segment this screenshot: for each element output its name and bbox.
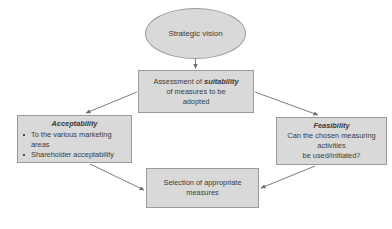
node-selection-line-2: measures [186, 188, 218, 198]
node-strategic-vision-label: Strategic vision [168, 29, 222, 38]
node-assessment-line-2: of measures to be [166, 87, 225, 97]
arrow-feasibility-to-selection [261, 166, 315, 188]
arrow-acceptability-to-selection [90, 164, 144, 190]
list-item: To the various marketing areas [22, 130, 127, 150]
arrow-assessment-to-acceptability [86, 92, 137, 113]
node-assessment-line-1-prefix: Assessment of [153, 77, 204, 86]
node-acceptability-title: Acceptability [22, 119, 127, 129]
node-feasibility-line-3: be used/initiated? [303, 151, 361, 161]
node-acceptability: Acceptability To the various marketing a… [17, 115, 132, 163]
flow-diagram: Strategic vision Assessment of suitabili… [0, 0, 392, 229]
node-strategic-vision: Strategic vision [145, 8, 246, 59]
node-feasibility-title: Feasibility [313, 121, 349, 131]
node-assessment-line-3: adopted [183, 97, 210, 107]
node-selection-line-1: Selection of appropriate [163, 178, 241, 188]
node-feasibility-line-2: activities [317, 141, 345, 151]
node-feasibility: Feasibility Can the chosen measuring act… [276, 117, 387, 165]
node-acceptability-bullet-list: To the various marketing areas Sharehold… [22, 130, 127, 160]
arrow-assessment-to-feasibility [255, 92, 318, 115]
list-item: Shareholder acceptability [22, 150, 127, 160]
node-assessment-emphasis: suitability [204, 77, 239, 86]
node-assessment-of-suitability: Assessment of suitability of measures to… [138, 70, 254, 113]
node-assessment-line-1: Assessment of suitability [153, 77, 238, 87]
node-feasibility-line-1: Can the chosen measuring [287, 131, 375, 141]
node-selection-of-measures: Selection of appropriate measures [146, 168, 259, 208]
